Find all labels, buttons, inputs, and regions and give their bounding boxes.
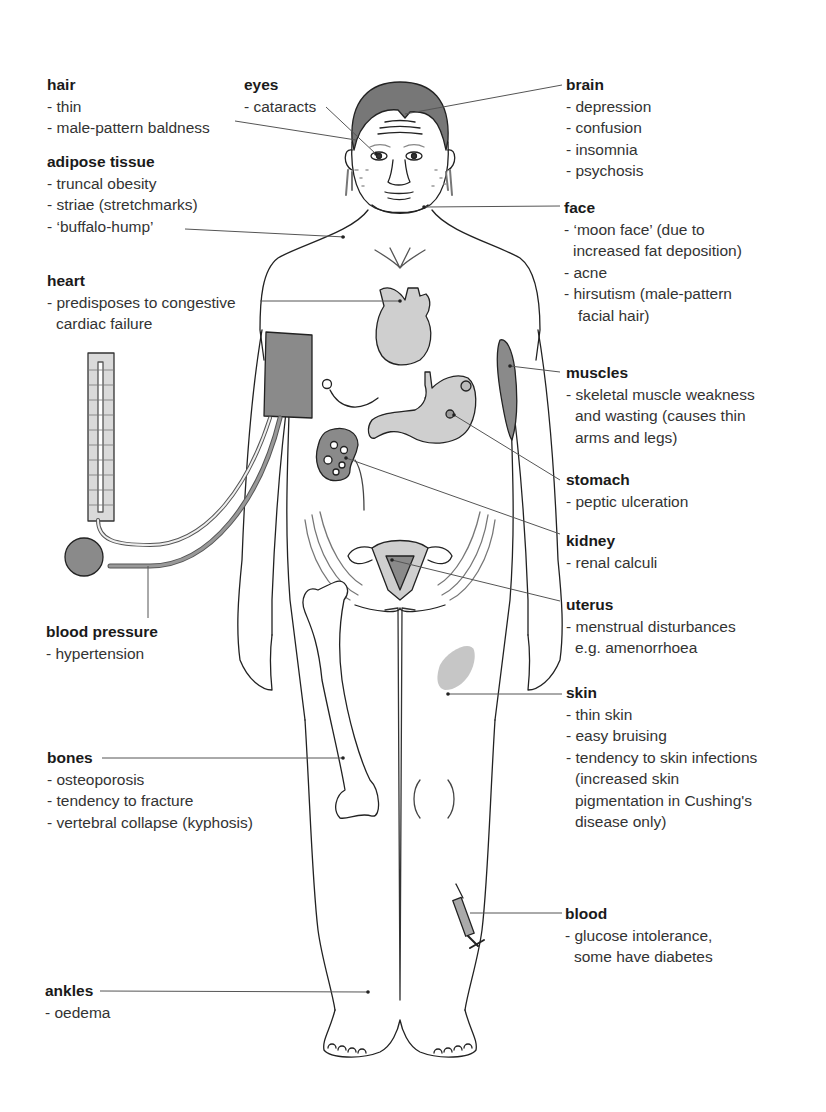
stomach-organ: [368, 372, 475, 443]
label-blood-pressure: blood pressure - hypertension: [46, 621, 158, 664]
label-heart: heart - predisposes to congestive cardia…: [47, 270, 236, 335]
muscle-organ: [497, 340, 517, 440]
label-stomach: stomach - peptic ulceration: [566, 469, 688, 512]
label-blood: blood - glucose intolerance, some have d…: [565, 903, 713, 968]
label-skin: skin - thin skin - easy bruising - tende…: [566, 682, 757, 833]
bp-cuff: [264, 332, 312, 418]
head: [345, 82, 455, 213]
bruise: [437, 646, 474, 690]
label-uterus: uterus - menstrual disturbances e.g. ame…: [566, 594, 736, 659]
bp-bulb: [65, 538, 103, 576]
label-eyes: eyes - cataracts: [244, 74, 316, 117]
femur-bone: [303, 581, 378, 818]
label-adipose-tissue: adipose tissue - truncal obesity - stria…: [47, 151, 198, 237]
leader-dots: [341, 152, 512, 994]
label-hair: hair - thin - male-pattern baldness: [47, 74, 210, 139]
label-ankles: ankles - oedema: [45, 980, 110, 1023]
label-kidney: kidney - renal calculi: [566, 530, 657, 573]
label-face: face - ‘moon face’ (due to increased fat…: [564, 197, 742, 326]
syringe: [453, 884, 484, 948]
label-bones: bones - osteoporosis - tendency to fract…: [47, 747, 253, 833]
label-brain: brain - depression - confusion - insomni…: [566, 74, 651, 182]
heart-organ: [376, 288, 431, 365]
label-muscles: muscles - skeletal muscle weakness and w…: [566, 362, 755, 448]
